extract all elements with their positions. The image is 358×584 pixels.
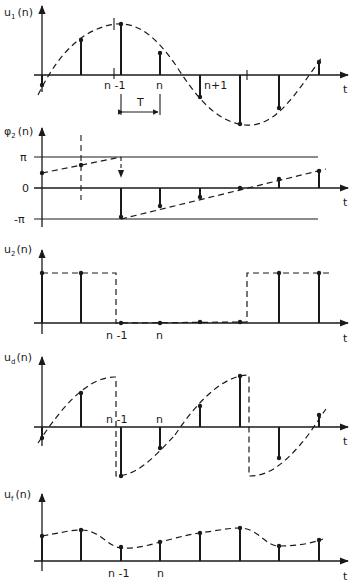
u2-t-label: t <box>343 332 348 345</box>
phi2-label: φ2(n) <box>4 125 33 140</box>
u1-tick-n-1: n -1 <box>104 79 125 92</box>
uf-label: uf(n) <box>4 488 31 503</box>
u2-label: u2(n) <box>4 243 32 258</box>
period-label: T <box>136 96 144 109</box>
ud-tick-n: n <box>156 413 163 426</box>
u1-label: u1(n) <box>4 6 33 21</box>
u2-square-wave <box>42 273 331 323</box>
panel-ud: ud(n) t n -1 n <box>4 351 348 478</box>
ud-t-label: t <box>343 435 348 448</box>
ud-label: ud(n) <box>4 351 32 366</box>
phase-ramp-2 <box>121 169 326 219</box>
tick-pi: π <box>20 151 27 164</box>
panel-phi2: φ2(n) π 0 -π t <box>4 125 348 227</box>
u2-tick-n-1: n -1 <box>106 329 127 342</box>
ud-tick-n-1: n -1 <box>106 413 127 426</box>
uf-tick-n: n <box>157 567 164 580</box>
pll-signal-diagram: u1(n) t n -1 n n+1 T φ2(n) π 0 -π t <box>0 0 358 584</box>
tick-zero: 0 <box>22 182 29 195</box>
uf-t-label: t <box>343 570 348 583</box>
ud-curve-2 <box>175 375 326 476</box>
panel-uf: uf(n) t n -1 n <box>4 488 348 583</box>
panel-u2: u2(n) t n -1 n <box>4 243 348 345</box>
phi2-t-label: t <box>343 196 348 209</box>
u1-t-label: t <box>343 83 348 96</box>
u2-tick-n: n <box>156 329 163 342</box>
u1-tick-n: n <box>156 79 163 92</box>
u1-tick-n+1: n+1 <box>204 79 227 92</box>
uf-tick-n-1: n -1 <box>108 567 129 580</box>
panel-u1: u1(n) t n -1 n n+1 T <box>4 6 348 126</box>
tick-minus-pi: -π <box>14 213 25 226</box>
